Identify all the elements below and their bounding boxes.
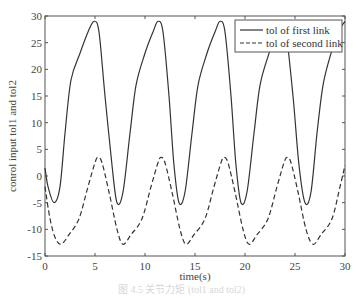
series-layer	[45, 21, 345, 244]
y-tick-label: 5	[37, 143, 43, 155]
x-axis-ticks: 051015202530	[42, 16, 351, 272]
legend-label: tol of second link	[266, 37, 343, 49]
x-tick-label: 25	[290, 260, 302, 272]
figure-caption: 图 4.5 关节力矩 (tol1 and tol2)	[0, 281, 363, 296]
y-tick-label: 30	[31, 10, 43, 22]
y-tick-label: 10	[31, 117, 43, 129]
x-tick-label: 10	[140, 260, 152, 272]
x-tick-label: 20	[240, 260, 252, 272]
y-tick-label: -10	[27, 223, 42, 235]
legend-label: tol of first link	[266, 24, 330, 36]
y-tick-label: 0	[37, 170, 43, 182]
y-axis-label: conrol input tol1 and tol2	[6, 80, 18, 192]
y-tick-label: -5	[33, 197, 43, 209]
y-tick-label: 15	[31, 90, 43, 102]
x-tick-label: 30	[340, 260, 352, 272]
y-tick-label: 25	[31, 37, 43, 49]
y-tick-label: -15	[27, 250, 42, 262]
legend: tol of first linktol of second link	[235, 20, 343, 52]
y-tick-label: 20	[31, 63, 43, 75]
x-tick-label: 0	[42, 260, 48, 272]
line-chart: 051015202530 -15-10-5051015202530 tol of…	[0, 0, 363, 299]
x-tick-label: 5	[92, 260, 98, 272]
